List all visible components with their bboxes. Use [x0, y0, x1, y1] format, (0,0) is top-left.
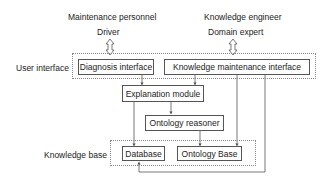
ontology-reasoner-box: Ontology reasoner	[145, 115, 224, 131]
layer-label-user-interface: User interface	[16, 64, 69, 73]
explanation-module-box: Explanation module	[122, 85, 204, 102]
actor-role-engineer: Knowledge engineer	[204, 13, 282, 22]
ontology-base-box: Ontology Base	[177, 146, 242, 161]
diagnosis-interface-box: Diagnosis interface	[78, 59, 154, 75]
database-box: Database	[122, 146, 165, 161]
layer-label-knowledge-base: Knowledge base	[44, 151, 107, 160]
actor-role-maintenance: Maintenance personnel	[68, 13, 156, 22]
actor-name-expert: Domain expert	[208, 28, 263, 37]
actor-name-driver: Driver	[97, 28, 120, 37]
knowledge-maintenance-interface-box: Knowledge maintenance interface	[164, 59, 310, 75]
